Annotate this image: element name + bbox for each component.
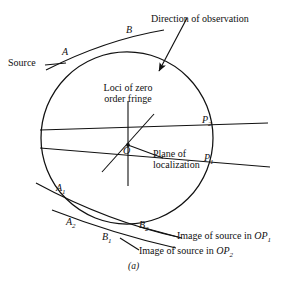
point-label-P2: P2 — [202, 114, 212, 129]
annotation-image-of-source-in-op2: Image of source in OP2 — [139, 245, 233, 260]
point-label-B: B — [126, 24, 132, 35]
ray-op2 — [40, 123, 268, 130]
figure-caption: (a) — [128, 261, 139, 272]
point-label-A1: A1 — [56, 182, 66, 197]
point-label-B1: B1 — [102, 231, 112, 246]
annotation-direction-of-observation: Direction of observation — [151, 13, 249, 24]
point-label-A2: A2 — [66, 216, 76, 231]
direction-of-observation-arrow — [159, 18, 187, 71]
image-op2-leader-line — [120, 238, 139, 250]
annotation-plane-of-localization: Plane of localization — [153, 148, 200, 170]
annotation-image-of-source-in-op1: Image of source in OP1 — [177, 230, 271, 245]
annotation-loci-of-zero-order-fringe: Loci of zero order fringe — [91, 82, 165, 104]
figure-container: A B O P2 P1 A1 A2 B1 B2 Source Direction… — [0, 0, 301, 294]
point-label-B2: B2 — [139, 219, 149, 234]
point-label-O: O — [123, 145, 130, 156]
point-label-A: A — [62, 46, 68, 57]
point-label-P1: P1 — [204, 152, 214, 167]
annotation-source: Source — [8, 57, 36, 68]
